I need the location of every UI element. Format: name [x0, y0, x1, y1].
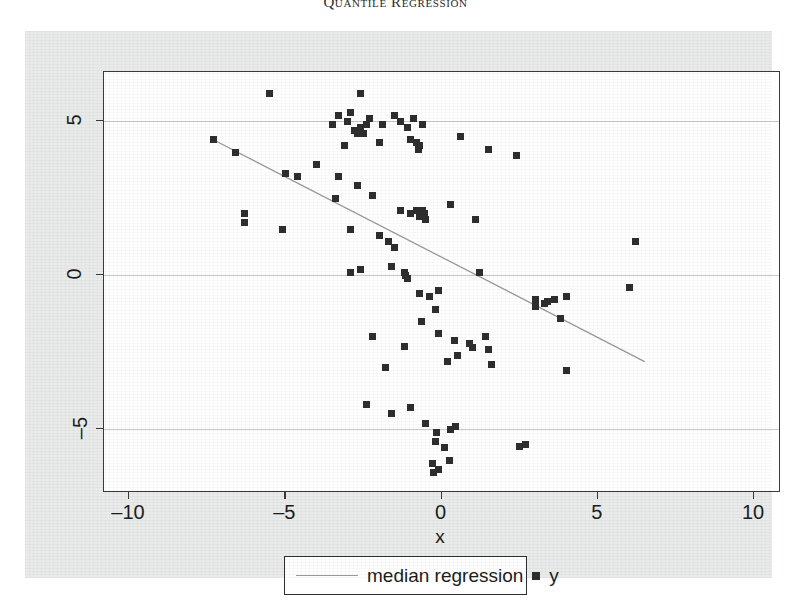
data-point [563, 367, 570, 374]
data-point [435, 466, 442, 473]
data-point [282, 170, 289, 177]
data-point [447, 201, 454, 208]
x-tick--10 [128, 492, 129, 499]
data-point [454, 352, 461, 359]
data-point [369, 333, 376, 340]
y-tick--5 [96, 428, 103, 429]
legend-label-median-regression: median regression [367, 565, 523, 587]
data-point [407, 404, 414, 411]
y-tick-label--5: –5 [69, 417, 92, 439]
data-point [379, 121, 386, 128]
data-point [441, 444, 448, 451]
data-point [241, 219, 248, 226]
data-point [551, 296, 558, 303]
data-point [513, 152, 520, 159]
data-point [313, 161, 320, 168]
data-point [335, 173, 342, 180]
data-point [363, 401, 370, 408]
data-point [360, 130, 367, 137]
y-tick-5 [96, 120, 103, 121]
x-tick-label--10: –10 [111, 501, 144, 524]
data-point [357, 266, 364, 273]
data-point [344, 118, 351, 125]
data-point [432, 438, 439, 445]
x-tick-label-5: 5 [591, 501, 602, 524]
data-point [485, 146, 492, 153]
y-tick-label-0: 0 [63, 269, 86, 280]
data-point [397, 207, 404, 214]
data-point [432, 306, 439, 313]
data-point [422, 420, 429, 427]
data-point [382, 364, 389, 371]
data-point [532, 303, 539, 310]
data-point [457, 133, 464, 140]
data-point [472, 216, 479, 223]
data-point [410, 115, 417, 122]
data-point [446, 457, 453, 464]
data-point [232, 149, 239, 156]
x-axis-title: x [435, 526, 445, 548]
data-point [482, 333, 489, 340]
data-point [485, 346, 492, 353]
data-point [476, 269, 483, 276]
data-point [357, 90, 364, 97]
plot-area [103, 71, 780, 492]
gridline-y-0 [104, 275, 779, 276]
data-point [426, 293, 433, 300]
data-point [332, 195, 339, 202]
data-point [388, 263, 395, 270]
data-point [469, 344, 476, 351]
data-point [376, 232, 383, 239]
running-head: Quantile Regression [0, 0, 791, 11]
y-tick-0 [96, 274, 103, 275]
data-point [329, 121, 336, 128]
data-point [347, 109, 354, 116]
x-tick-10 [753, 492, 754, 499]
data-point [626, 284, 633, 291]
median-regression-line [104, 72, 779, 491]
data-point [488, 361, 495, 368]
figure-page: Quantile Regression x median regression … [0, 0, 791, 605]
data-point [415, 146, 422, 153]
data-point [347, 226, 354, 233]
data-point [422, 216, 429, 223]
data-point [418, 318, 425, 325]
data-point [376, 139, 383, 146]
data-point [369, 192, 376, 199]
data-point [435, 330, 442, 337]
data-point [557, 315, 564, 322]
y-tick-label-5: 5 [63, 115, 86, 126]
data-point [347, 269, 354, 276]
data-point [241, 210, 248, 217]
data-point [401, 343, 408, 350]
data-point [632, 238, 639, 245]
data-point [279, 226, 286, 233]
x-tick-0 [441, 492, 442, 499]
legend-marker-swatch [532, 572, 540, 580]
x-tick-label-0: 0 [435, 501, 446, 524]
chart-legend[interactable]: median regression y [284, 556, 527, 595]
data-point [563, 293, 570, 300]
data-point [451, 337, 458, 344]
data-point [416, 290, 423, 297]
data-point [266, 90, 273, 97]
data-point [341, 142, 348, 149]
data-point [354, 182, 361, 189]
x-tick-5 [597, 492, 598, 499]
data-point [435, 287, 442, 294]
data-point [433, 429, 440, 436]
gridline-y-5 [104, 121, 779, 122]
data-point [452, 423, 459, 430]
data-point [444, 358, 451, 365]
data-point [335, 112, 342, 119]
data-point [522, 441, 529, 448]
data-point [294, 173, 301, 180]
x-tick-label-10: 10 [742, 501, 764, 524]
legend-label-y: y [549, 565, 559, 587]
x-tick--5 [284, 492, 285, 499]
legend-line-swatch [296, 575, 358, 576]
data-point [419, 121, 426, 128]
figure-panel: x median regression y –10–50510–505 [25, 31, 772, 578]
data-point [388, 410, 395, 417]
data-point [404, 275, 411, 282]
